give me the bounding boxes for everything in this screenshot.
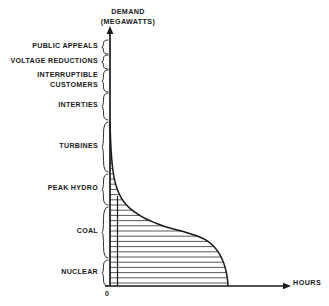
tier-bracket <box>102 122 108 172</box>
tier-bracket <box>102 260 108 286</box>
y-axis-arrowhead <box>107 26 114 34</box>
tier-bracket <box>102 174 108 205</box>
chart-canvas <box>0 0 329 306</box>
resource-tier-bracket-list <box>102 40 108 286</box>
tier-bracket <box>102 207 108 258</box>
tier-bracket <box>102 93 108 120</box>
area-hatch-fill <box>110 127 251 283</box>
tier-bracket <box>102 40 108 54</box>
tier-bracket <box>102 70 108 92</box>
tier-bracket <box>102 55 108 69</box>
load-duration-curve-line <box>110 122 228 286</box>
load-duration-curve-figure: DEMAND (MEGAWATTS) HOURS 0 PUBLIC APPEAL… <box>0 0 329 306</box>
x-axis-arrowhead <box>283 283 291 289</box>
